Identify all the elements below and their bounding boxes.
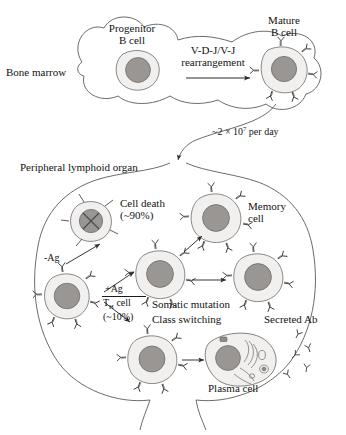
- mature-label-line2: B cell: [271, 26, 297, 38]
- rearrangement-label: V-D-J/V-J rearrangement: [176, 44, 250, 69]
- dead-cell: [61, 194, 118, 246]
- nucleus: [203, 205, 230, 232]
- rearrangement-line1: V-D-J/V-J: [191, 44, 235, 56]
- nucleus: [216, 346, 241, 371]
- somatic-mutation-label: Somatic mutation: [152, 298, 230, 310]
- minus-ag-label: -Ag: [44, 252, 60, 263]
- mature-label-line1: Mature: [268, 14, 300, 26]
- th-cell-tail: cell: [114, 297, 131, 308]
- memory-label-line1: Memory: [248, 200, 286, 212]
- memory-cell: [180, 182, 253, 252]
- th-percent-label: (~10%): [103, 311, 133, 322]
- output-rate-tail: per day: [246, 126, 278, 137]
- progenitor-b-cell: [116, 51, 159, 91]
- nucleus: [139, 346, 165, 372]
- output-rate-base: ~2 × 10: [212, 126, 243, 137]
- nucleus: [245, 264, 272, 291]
- memory-label-line2: cell: [248, 212, 264, 224]
- nucleus: [147, 261, 174, 288]
- cell-death-label: Cell death (~90%): [120, 197, 165, 222]
- plasma-cell: [205, 333, 276, 386]
- nucleus: [54, 283, 80, 309]
- mature-label: Mature B cell: [252, 14, 316, 39]
- plus-ag-label: +Ag: [105, 283, 123, 294]
- daughter-b-cell: [223, 242, 294, 311]
- class-switching-label: Class switching: [152, 313, 221, 325]
- output-rate-label: ~2 × 107 per day: [212, 126, 279, 137]
- progenitor-label-line1: Progenitor: [109, 22, 155, 34]
- cell-death-line2: (~90%): [120, 209, 153, 221]
- minus-ag-arrow: [66, 244, 100, 264]
- bone-marrow-label: Bone marrow: [6, 66, 66, 78]
- nucleus: [126, 58, 151, 83]
- nucleus: [271, 56, 296, 81]
- cell-death-line1: Cell death: [120, 197, 165, 209]
- th-cell-label: TH cell: [103, 297, 131, 308]
- plasma-cell-label: Plasma cell: [208, 382, 258, 394]
- secreted-antibodies: [283, 329, 313, 379]
- mature-b-cell: [250, 37, 318, 102]
- class-switching-cell: [117, 324, 188, 393]
- secreted-ab-label: Secreted Ab: [264, 313, 317, 325]
- memory-label: Memory cell: [248, 200, 286, 225]
- peripheral-label: Peripheral lymphoid organ: [20, 161, 138, 173]
- progenitor-label-line2: B cell: [119, 34, 145, 46]
- progenitor-label: Progenitor B cell: [96, 22, 168, 47]
- rearrangement-line2: rearrangement: [181, 56, 245, 68]
- naive-b-cell: [33, 262, 100, 328]
- memory-arrow: [184, 236, 202, 252]
